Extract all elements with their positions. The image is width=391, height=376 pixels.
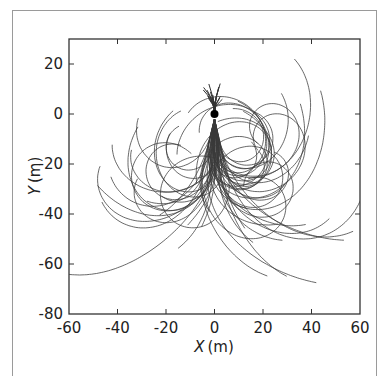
y-tick-label: -80 (39, 305, 64, 323)
y-tick-label: 20 (44, 55, 63, 73)
x-tick-label: 40 (302, 319, 321, 337)
origin-marker (211, 110, 219, 118)
y-tick-label: -40 (39, 205, 64, 223)
y-axis-label: Y(m) (26, 157, 44, 196)
y-tick-label: -60 (39, 255, 64, 273)
x-tick-label: 60 (350, 319, 369, 337)
x-tick-label: -20 (154, 319, 179, 337)
x-tick-label: -40 (105, 319, 130, 337)
x-tick-label: 20 (253, 319, 272, 337)
chart: -60-40-200204060-80-60-40-20020 X(m) Y(m… (0, 0, 391, 376)
y-tick-label: 0 (53, 105, 63, 123)
x-axis-label: X(m) (193, 338, 234, 356)
x-tick-label: 0 (210, 319, 220, 337)
